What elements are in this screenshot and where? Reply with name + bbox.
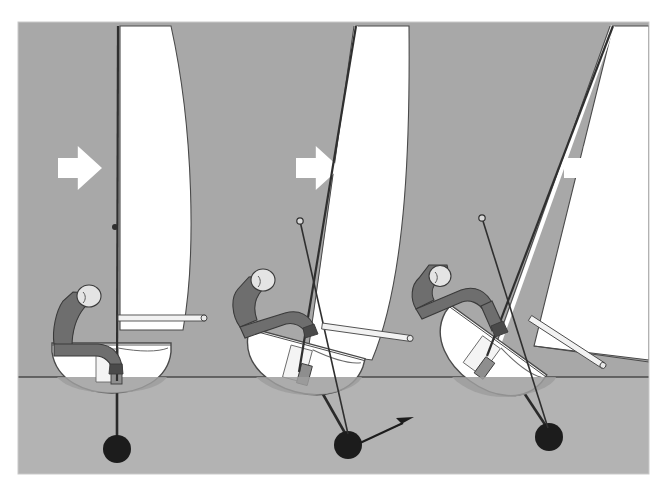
boat-3-crew-head bbox=[429, 266, 451, 287]
boat-3-hound-fitting bbox=[479, 215, 485, 221]
sailboat-heeling-illustration bbox=[0, 0, 667, 487]
boat-2-keel-bulb bbox=[334, 431, 362, 459]
boat-1-keel-bulb bbox=[103, 435, 131, 463]
boat-1-crew-foot bbox=[109, 364, 123, 374]
boat-2-crew-head bbox=[251, 269, 275, 291]
boat-3-keel-bulb bbox=[535, 423, 563, 451]
figure-canvas: Sailing dinghy heeling sequence Three cr… bbox=[0, 0, 667, 487]
boat-2-hound-fitting bbox=[297, 218, 303, 224]
boat-1-boom bbox=[118, 315, 205, 321]
boat-2-clew-fitting bbox=[407, 335, 414, 342]
boat-1-hound-fitting bbox=[112, 224, 118, 230]
boat-1-clew-fitting bbox=[201, 315, 207, 321]
boat-1-crew-head bbox=[77, 285, 101, 307]
boat-1-mast bbox=[117, 26, 118, 381]
